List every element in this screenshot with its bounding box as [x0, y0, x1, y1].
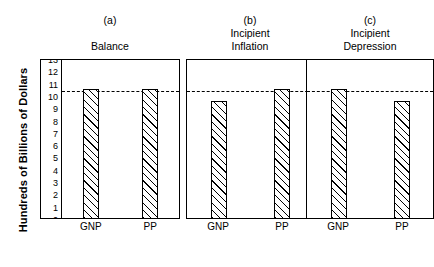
x-tick-label: GNP: [80, 221, 102, 233]
y-tick-label: 1: [53, 203, 58, 212]
panel-c: (c)Incipient DepressionGNPPP: [306, 14, 434, 235]
y-tick-label: 8: [53, 117, 58, 126]
plot-area: [62, 60, 179, 218]
x-tick-label: PP: [395, 221, 408, 233]
bar-pp: [394, 101, 410, 218]
y-tick-label: 2: [53, 191, 58, 200]
y-tick-label: 10: [48, 92, 58, 101]
plot-box: [306, 59, 434, 219]
y-tick-label: 5: [53, 154, 58, 163]
panel-caption: (c): [306, 14, 434, 27]
y-tick-label: 12: [48, 68, 58, 77]
y-tick-label: 9: [53, 105, 58, 114]
panel-title: Balance: [40, 40, 180, 53]
panel-title: Incipient Inflation: [186, 27, 314, 53]
bar-gnp: [331, 89, 347, 218]
plot-box: 131211109876543210: [40, 59, 180, 219]
reference-line: [62, 91, 179, 92]
panel-title: Incipient Depression: [306, 27, 434, 53]
y-tick-label: 3: [53, 179, 58, 188]
y-tick-label: 6: [53, 142, 58, 151]
y-tick-label: 13: [48, 59, 58, 65]
y-tick-label: 11: [49, 80, 58, 89]
y-tick-label: 4: [53, 166, 58, 175]
x-tick-label: PP: [144, 221, 157, 233]
bar-gnp: [211, 101, 227, 218]
panel-caption: (b): [186, 14, 314, 27]
bar-pp: [142, 89, 158, 218]
x-tick-label: PP: [275, 221, 288, 233]
plot-box: [186, 59, 314, 219]
x-tick-label: GNP: [207, 221, 229, 233]
plot-area: [307, 60, 433, 218]
reference-line: [307, 91, 433, 92]
x-tick-row: GNPPP: [306, 219, 434, 235]
panel-b: (b)Incipient InflationGNPPP: [186, 14, 314, 235]
y-tick-label: 7: [53, 129, 58, 138]
x-tick-label: GNP: [327, 221, 349, 233]
x-tick-row: GNPPP: [186, 219, 314, 235]
panel-caption: (a): [40, 14, 180, 27]
bar-pp: [274, 89, 290, 218]
y-axis-gutter: 131211109876543210: [41, 60, 62, 218]
x-tick-row: GNPPP: [40, 219, 180, 235]
reference-line: [187, 91, 313, 92]
bar-gnp: [83, 89, 99, 218]
panel-a: (a)Balance131211109876543210GNPPP: [40, 14, 180, 235]
plot-area: [187, 60, 313, 218]
